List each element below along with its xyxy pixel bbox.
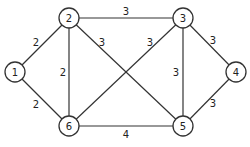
- edge-1-2: [15, 18, 69, 72]
- edge-weight-1-6: 2: [33, 99, 39, 110]
- edge-1-6: [15, 72, 69, 126]
- node-6: 6: [59, 116, 79, 136]
- edge-weight-6-3: 3: [147, 37, 153, 48]
- node-label: 1: [12, 67, 18, 78]
- node-4: 4: [226, 62, 246, 82]
- node-2: 2: [59, 8, 79, 28]
- edge-weight-3-5: 3: [173, 67, 179, 78]
- node-label: 5: [180, 121, 186, 132]
- edges-group: [15, 18, 236, 126]
- edge-weight-2-3: 3: [123, 6, 129, 17]
- edge-weight-2-5: 3: [99, 37, 105, 48]
- node-label: 2: [66, 13, 72, 24]
- node-label: 6: [66, 121, 72, 132]
- edge-weight-3-4: 3: [210, 35, 216, 46]
- graph-diagram: 2223333334 123456: [0, 0, 250, 147]
- node-label: 3: [180, 13, 186, 24]
- node-label: 4: [233, 67, 239, 78]
- node-5: 5: [173, 116, 193, 136]
- edge-weight-2-6: 2: [60, 67, 66, 78]
- node-3: 3: [173, 8, 193, 28]
- node-1: 1: [5, 62, 25, 82]
- edge-weight-1-2: 2: [33, 37, 39, 48]
- edge-weight-6-5: 4: [123, 129, 129, 140]
- edge-weight-4-5: 3: [210, 98, 216, 109]
